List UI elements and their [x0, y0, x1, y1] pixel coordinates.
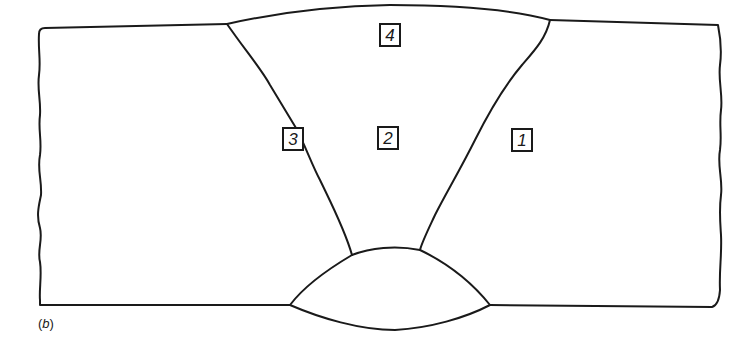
zone-label-4-text: 4	[385, 27, 394, 44]
root-bead-left-flank	[290, 255, 352, 305]
zone-label-1-text: 1	[517, 132, 526, 149]
root-penetration-profile	[290, 305, 490, 330]
caption-letter: b	[42, 316, 49, 331]
weld-crown-profile	[227, 5, 550, 24]
root-bead-right-flank	[420, 250, 490, 305]
zone-label-1: 1	[511, 128, 533, 152]
root-pass-top-boundary	[352, 248, 420, 255]
zone-label-2-text: 2	[383, 130, 392, 147]
caption-close-paren: )	[50, 316, 54, 331]
figure-caption: (b)	[38, 316, 54, 331]
left-plate-outline	[38, 24, 290, 305]
zone-label-3: 3	[282, 127, 304, 151]
zone-label-2: 2	[377, 126, 399, 150]
weld-cross-section-diagram	[0, 0, 755, 346]
zone-label-4: 4	[379, 23, 401, 47]
zone-label-3-text: 3	[288, 131, 297, 148]
